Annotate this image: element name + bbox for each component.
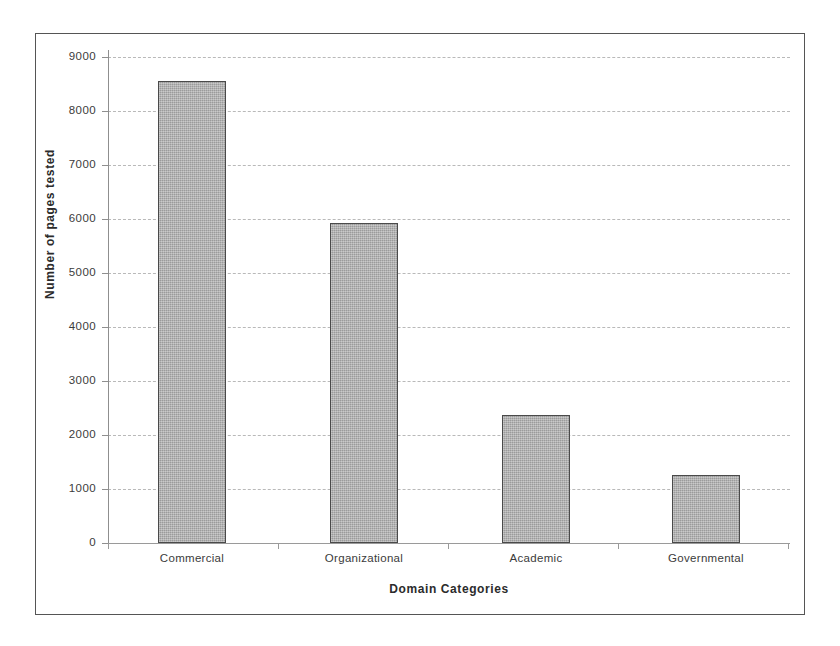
bar-governmental[interactable] bbox=[672, 475, 740, 543]
y-tick-label-0: 0 bbox=[40, 536, 96, 548]
y-tick-6000 bbox=[102, 219, 109, 220]
x-tick-1 bbox=[278, 543, 279, 549]
gridline-9000 bbox=[108, 57, 790, 58]
bar-chart-figure: 9000 8000 7000 6000 5000 4000 3000 2000 … bbox=[0, 0, 840, 646]
x-label-organizational: Organizational bbox=[284, 552, 444, 564]
y-axis-title: Number of pages tested bbox=[43, 134, 57, 314]
x-label-academic: Academic bbox=[456, 552, 616, 564]
y-tick-3000 bbox=[102, 381, 109, 382]
y-tick-5000 bbox=[102, 273, 109, 274]
bar-academic[interactable] bbox=[502, 415, 570, 543]
y-tick-1000 bbox=[102, 489, 109, 490]
gridline-0-baseline bbox=[108, 543, 790, 544]
bar-organizational[interactable] bbox=[330, 223, 398, 543]
y-tick-label-3000: 3000 bbox=[40, 374, 96, 386]
x-label-governmental: Governmental bbox=[626, 552, 786, 564]
x-tick-end bbox=[788, 543, 789, 549]
y-tick-label-8000: 8000 bbox=[40, 104, 96, 116]
y-tick-label-2000: 2000 bbox=[40, 428, 96, 440]
y-tick-2000 bbox=[102, 435, 109, 436]
y-tick-label-1000: 1000 bbox=[40, 482, 96, 494]
y-tick-label-4000: 4000 bbox=[40, 320, 96, 332]
x-tick-2 bbox=[448, 543, 449, 549]
bar-commercial[interactable] bbox=[158, 81, 226, 543]
y-tick-9000 bbox=[102, 57, 109, 58]
y-tick-7000 bbox=[102, 165, 109, 166]
x-label-commercial: Commercial bbox=[112, 552, 272, 564]
x-tick-start bbox=[108, 543, 109, 549]
y-tick-8000 bbox=[102, 111, 109, 112]
x-axis-title: Domain Categories bbox=[108, 582, 790, 596]
y-tick-4000 bbox=[102, 327, 109, 328]
x-tick-3 bbox=[618, 543, 619, 549]
y-tick-label-9000: 9000 bbox=[40, 50, 96, 62]
